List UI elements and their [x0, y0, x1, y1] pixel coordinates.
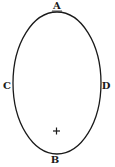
ellipse-diagram: A B C D	[0, 0, 115, 167]
diagram-canvas: A B C D	[0, 0, 115, 167]
label-b: B	[51, 154, 59, 165]
plus-marker-icon	[53, 128, 60, 135]
label-a: A	[52, 0, 61, 11]
label-d: D	[102, 80, 111, 91]
label-c: C	[3, 80, 11, 91]
